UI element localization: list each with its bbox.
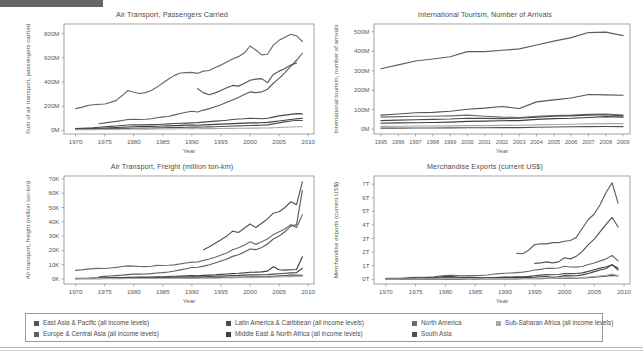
svg-text:600M: 600M xyxy=(44,54,59,61)
svg-text:200M: 200M xyxy=(354,86,369,93)
chart-panel-air-transport-freight: Air Transport, Freight (million ton-km) … xyxy=(22,162,322,310)
svg-text:1980: 1980 xyxy=(127,138,141,145)
svg-text:0K: 0K xyxy=(52,275,60,282)
svg-text:100M: 100M xyxy=(354,106,369,113)
svg-text:1996: 1996 xyxy=(392,139,404,145)
legend-item-label: Latin America & Caribbean (all income le… xyxy=(235,319,364,327)
legend-item[interactable]: Middle East & North Africa (all income l… xyxy=(226,330,363,338)
plot-international-tourism-arrivals[interactable]: 0M100M200M300M400M500M199519961997199819… xyxy=(330,20,640,160)
svg-text:1970: 1970 xyxy=(379,288,393,295)
svg-text:2002: 2002 xyxy=(496,139,508,145)
svg-text:6T: 6T xyxy=(362,194,369,201)
svg-text:2008: 2008 xyxy=(600,139,612,145)
svg-text:2010: 2010 xyxy=(301,138,315,145)
svg-text:50K: 50K xyxy=(48,204,60,211)
svg-text:60K: 60K xyxy=(48,189,60,196)
legend-item[interactable]: South Asia xyxy=(412,330,452,338)
svg-text:2001: 2001 xyxy=(478,139,490,145)
legend-item-label: North America xyxy=(421,319,462,327)
plot-air-transport-freight[interactable]: 0K10K20K30K40K50K60K70K19701975198019851… xyxy=(22,172,322,310)
legend-item[interactable]: Europe & Central Asia (all income levels… xyxy=(34,330,159,338)
svg-text:Merchandise exports (current U: Merchandise exports (current US$) xyxy=(332,182,339,278)
svg-text:1970: 1970 xyxy=(69,288,83,295)
chart-title-air-transport-freight: Air Transport, Freight (million ton-km) xyxy=(22,162,322,172)
svg-text:3T: 3T xyxy=(362,235,369,242)
plot-merchandise-exports[interactable]: 0T1T2T3T4T5T6T7T197019751980198519901995… xyxy=(330,172,640,310)
svg-text:2000: 2000 xyxy=(461,139,473,145)
legend-swatch-icon xyxy=(34,332,39,337)
svg-text:1997: 1997 xyxy=(409,139,421,145)
chart-panel-international-tourism-arrivals: International Tourism, Number of Arrival… xyxy=(330,10,640,160)
legend-item-label: Sub-Saharan Africa (all income levels) xyxy=(505,319,613,327)
chart-title-air-transport-passengers: Air Transport, Passengers Carried xyxy=(22,10,322,20)
svg-text:0M: 0M xyxy=(361,125,370,132)
svg-text:1980: 1980 xyxy=(439,288,453,295)
top-bar-filler xyxy=(103,0,643,7)
top-accent-bar xyxy=(0,0,103,7)
legend-swatch-icon xyxy=(226,332,231,337)
dashboard-page: Air Transport, Passengers Carried 0M200M… xyxy=(0,0,643,354)
legend-item[interactable]: Sub-Saharan Africa (all income levels) xyxy=(496,319,613,327)
legend-swatch-icon xyxy=(226,321,231,326)
svg-text:1995: 1995 xyxy=(214,138,228,145)
svg-text:500M: 500M xyxy=(354,28,369,35)
svg-text:4T: 4T xyxy=(362,221,369,228)
svg-text:1980: 1980 xyxy=(127,288,141,295)
svg-text:2005: 2005 xyxy=(272,138,286,145)
svg-text:2003: 2003 xyxy=(513,139,525,145)
svg-text:1990: 1990 xyxy=(498,288,512,295)
svg-text:1998: 1998 xyxy=(427,139,439,145)
svg-text:2005: 2005 xyxy=(548,139,560,145)
svg-text:1970: 1970 xyxy=(69,138,83,145)
legend-items-container: East Asia & Pacific (all income levels)E… xyxy=(26,314,602,341)
svg-text:0M: 0M xyxy=(51,126,60,133)
svg-text:800M: 800M xyxy=(44,30,59,37)
svg-text:2004: 2004 xyxy=(530,139,542,145)
svg-text:1T: 1T xyxy=(362,262,369,269)
legend-swatch-icon xyxy=(496,321,501,326)
chart-title-international-tourism-arrivals: International Tourism, Number of Arrival… xyxy=(330,10,640,20)
svg-text:Year: Year xyxy=(496,297,509,304)
svg-text:2006: 2006 xyxy=(565,139,577,145)
svg-text:1975: 1975 xyxy=(98,288,112,295)
footer-rule-primary xyxy=(0,347,643,348)
svg-text:1995: 1995 xyxy=(528,288,542,295)
legend-swatch-icon xyxy=(412,321,417,326)
svg-text:1975: 1975 xyxy=(409,288,423,295)
svg-text:1995: 1995 xyxy=(375,139,387,145)
svg-text:2T: 2T xyxy=(362,248,369,255)
legend-item[interactable]: Latin America & Caribbean (all income le… xyxy=(226,319,364,327)
chart-panel-merchandise-exports: Merchandise Exports (current US$) 0T1T2T… xyxy=(330,162,640,310)
svg-text:400M: 400M xyxy=(354,47,369,54)
svg-text:2010: 2010 xyxy=(617,288,631,295)
legend-item-label: Middle East & North Africa (all income l… xyxy=(235,330,363,338)
legend-item-label: South Asia xyxy=(421,330,452,338)
chart-title-merchandise-exports: Merchandise Exports (current US$) xyxy=(330,162,640,172)
legend-item-label: Europe & Central Asia (all income levels… xyxy=(43,330,159,338)
svg-text:1999: 1999 xyxy=(444,139,456,145)
legend-swatch-icon xyxy=(412,332,417,337)
svg-text:2007: 2007 xyxy=(582,139,594,145)
plot-air-transport-passengers[interactable]: 0M200M400M600M800M1970197519801985199019… xyxy=(22,20,322,160)
legend-item[interactable]: North America xyxy=(412,319,462,327)
svg-text:2010: 2010 xyxy=(301,288,315,295)
svg-text:2000: 2000 xyxy=(243,288,257,295)
svg-text:1985: 1985 xyxy=(156,288,170,295)
footer-rule-secondary xyxy=(0,350,643,351)
svg-text:2005: 2005 xyxy=(587,288,601,295)
svg-text:2009: 2009 xyxy=(617,139,629,145)
svg-text:20K: 20K xyxy=(48,246,60,253)
svg-text:40K: 40K xyxy=(48,218,60,225)
svg-text:0T: 0T xyxy=(362,275,369,282)
svg-text:Air transport, freight (millio: Air transport, freight (million ton-km) xyxy=(24,181,31,279)
svg-text:300M: 300M xyxy=(354,67,369,74)
svg-text:1985: 1985 xyxy=(156,138,170,145)
svg-text:International tourism, number: International tourism, number of arrival… xyxy=(332,24,339,133)
svg-text:Year: Year xyxy=(183,147,196,154)
svg-text:5T: 5T xyxy=(362,207,369,214)
svg-text:1975: 1975 xyxy=(98,138,112,145)
legend-item[interactable]: East Asia & Pacific (all income levels) xyxy=(34,319,149,327)
svg-text:Year: Year xyxy=(496,147,509,154)
svg-text:400M: 400M xyxy=(44,78,59,85)
svg-text:1990: 1990 xyxy=(185,288,199,295)
